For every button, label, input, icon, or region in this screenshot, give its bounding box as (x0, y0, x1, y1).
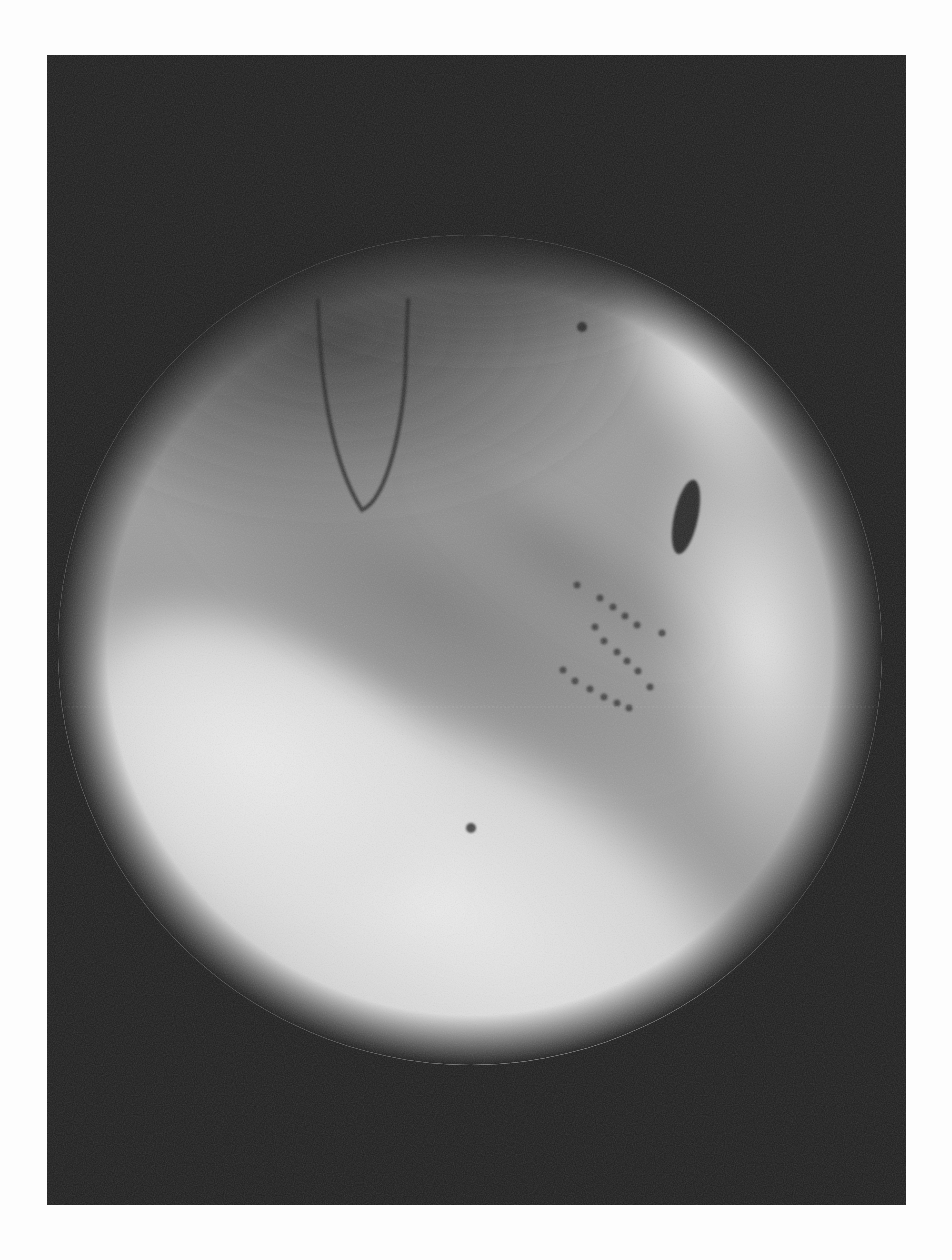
film-grain (47, 55, 906, 1205)
page-background (0, 0, 952, 1260)
fluoroscopy-image (47, 55, 906, 1205)
cut-off-text-line (0, 0, 952, 11)
fluoroscopy-canvas (47, 55, 906, 1205)
